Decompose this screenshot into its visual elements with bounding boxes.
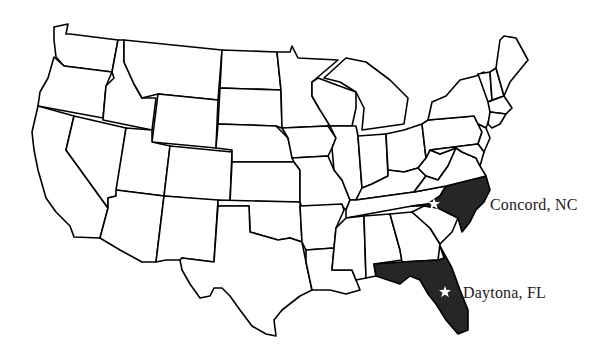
state-maine xyxy=(496,36,528,96)
marker-label-daytona: Daytona, FL xyxy=(463,284,546,302)
state-wyoming xyxy=(152,94,218,148)
state-arizona xyxy=(100,190,164,262)
state-kansas xyxy=(230,162,300,202)
state-connecticut xyxy=(488,112,506,128)
us-states-svg xyxy=(0,0,596,360)
marker-label-concord: Concord, NC xyxy=(490,196,578,214)
state-montana xyxy=(124,40,222,100)
us-map: Concord, NC Daytona, FL xyxy=(0,0,596,360)
state-north-dakota xyxy=(220,50,281,90)
state-colorado xyxy=(164,146,232,202)
state-new-mexico xyxy=(156,196,218,262)
state-south-dakota xyxy=(218,88,282,128)
